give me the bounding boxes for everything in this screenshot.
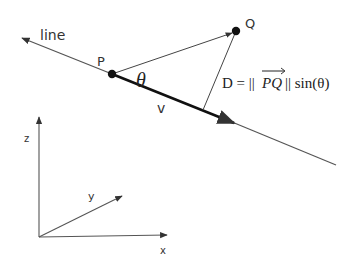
distance-formula: D = || PQ || sin(θ) <box>222 68 329 92</box>
line-right-segment <box>232 122 336 165</box>
axis-z-label: z <box>24 133 29 144</box>
vector-pq <box>112 33 232 74</box>
vector-v <box>112 74 234 123</box>
vector-v-label: v <box>157 100 165 116</box>
axis-x-label: x <box>160 245 166 256</box>
axis-x <box>39 235 167 237</box>
coordinate-axes: z y x <box>24 117 167 256</box>
point-p-label: P <box>97 54 105 69</box>
diagram-canvas: line P Q θ v D = || PQ || sin(θ) z y x <box>0 0 355 269</box>
point-q <box>232 27 240 35</box>
formula-suffix: || sin(θ) <box>285 75 329 92</box>
theta-label: θ <box>136 69 146 91</box>
perpendicular-distance <box>203 31 236 110</box>
point-q-label: Q <box>245 16 255 31</box>
formula-vector: PQ <box>261 75 282 91</box>
axis-y <box>39 196 122 237</box>
point-p <box>108 70 116 78</box>
formula-prefix: D = || <box>222 75 255 91</box>
line-label: line <box>40 27 65 43</box>
axis-y-label: y <box>88 190 95 203</box>
